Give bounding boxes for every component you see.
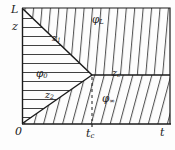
region-label-phi-0: φ0 — [36, 68, 48, 80]
curve-label-z1: z1 — [52, 33, 61, 43]
curve-label-zc: zc — [112, 68, 120, 78]
phi-L-sub: L — [99, 18, 103, 26]
axis-label-origin: 0 — [15, 126, 22, 137]
z2-sub: 2 — [50, 93, 54, 100]
region-label-phi-infinity: φ∞ — [102, 93, 115, 105]
phase-diagram-figure: L z 0 t tc φL φ0 φ∞ z1 z2 zc — [0, 0, 175, 150]
region-label-phi-L: φL — [92, 14, 104, 26]
axis-label-t: t — [160, 127, 164, 138]
phi-inf-sub: ∞ — [109, 97, 115, 105]
axis-label-tc: tc — [86, 128, 94, 139]
axis-label-L: L — [11, 4, 18, 15]
z1-sub: 1 — [57, 36, 61, 43]
curve-label-z2: z2 — [45, 90, 54, 100]
phi-0-sub: 0 — [43, 72, 47, 80]
zc-sub: c — [117, 71, 120, 78]
axis-label-z: z — [12, 21, 18, 32]
tc-sub: c — [90, 131, 94, 140]
